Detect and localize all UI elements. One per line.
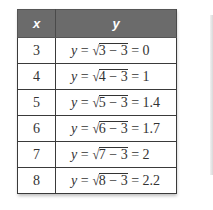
x-value: 6 <box>18 116 56 142</box>
equals: = <box>77 43 92 58</box>
square-root: √4 − 3 <box>92 69 128 85</box>
table-row: 3 y = √3 − 3 = 0 <box>18 38 177 64</box>
result: = 0 <box>128 43 150 58</box>
page-edge-shadow <box>210 15 213 175</box>
table-header-row: x y <box>18 10 177 38</box>
radicand: 3 − 3 <box>99 43 128 58</box>
radical-icon: √ <box>93 121 100 137</box>
y-expression: y = √7 − 3 = 2 <box>56 142 177 168</box>
radicand: 5 − 3 <box>99 95 128 110</box>
x-value: 7 <box>18 142 56 168</box>
square-root: √5 − 3 <box>92 95 128 111</box>
table-row: 6 y = √6 − 3 = 1.7 <box>18 116 177 142</box>
table-row: 8 y = √8 − 3 = 2.2 <box>18 168 177 194</box>
square-root: √8 − 3 <box>92 173 128 189</box>
y-expression: y = √3 − 3 = 0 <box>56 38 177 64</box>
square-root: √7 − 3 <box>92 147 128 163</box>
radical-icon: √ <box>93 95 100 111</box>
x-value: 3 <box>18 38 56 64</box>
result: = 2 <box>128 147 150 162</box>
table-row: 5 y = √5 − 3 = 1.4 <box>18 90 177 116</box>
radical-icon: √ <box>93 147 100 163</box>
equals: = <box>77 147 92 162</box>
y-expression: y = √8 − 3 = 2.2 <box>56 168 177 194</box>
radicand: 7 − 3 <box>99 147 128 162</box>
header-x: x <box>18 10 56 38</box>
header-y: y <box>56 10 177 38</box>
radical-icon: √ <box>93 173 100 189</box>
table-row: 4 y = √4 − 3 = 1 <box>18 64 177 90</box>
radical-icon: √ <box>93 43 100 59</box>
y-expression: y = √6 − 3 = 1.7 <box>56 116 177 142</box>
equals: = <box>77 95 92 110</box>
radicand: 4 − 3 <box>99 69 128 84</box>
y-expression: y = √5 − 3 = 1.4 <box>56 90 177 116</box>
table-row: 7 y = √7 − 3 = 2 <box>18 142 177 168</box>
values-table-container: x y 3 y = √3 − 3 = 0 4 y = √4 − 3 = 1 5 … <box>17 9 176 194</box>
result: = 1.7 <box>128 121 160 136</box>
equals: = <box>77 121 92 136</box>
radicand: 6 − 3 <box>99 121 128 136</box>
equals: = <box>77 69 92 84</box>
equals: = <box>77 173 92 188</box>
square-root: √3 − 3 <box>92 43 128 59</box>
y-expression: y = √4 − 3 = 1 <box>56 64 177 90</box>
x-value: 4 <box>18 64 56 90</box>
values-table: x y 3 y = √3 − 3 = 0 4 y = √4 − 3 = 1 5 … <box>17 9 177 194</box>
radicand: 8 − 3 <box>99 173 128 188</box>
x-value: 5 <box>18 90 56 116</box>
radical-icon: √ <box>93 69 100 85</box>
result: = 1.4 <box>128 95 160 110</box>
result: = 2.2 <box>128 173 160 188</box>
x-value: 8 <box>18 168 56 194</box>
square-root: √6 − 3 <box>92 121 128 137</box>
result: = 1 <box>128 69 150 84</box>
